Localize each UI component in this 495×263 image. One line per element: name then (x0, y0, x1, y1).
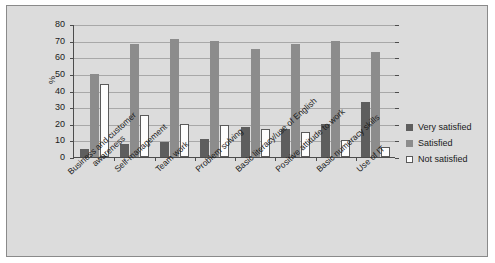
y-tick-mark (70, 92, 74, 93)
gridline (74, 42, 395, 43)
gridline (74, 92, 395, 93)
y-tick-mark (70, 25, 74, 26)
x-tick-mark (155, 157, 156, 161)
bar (170, 39, 179, 157)
bar (331, 41, 340, 157)
y-tick-mark-right (395, 92, 399, 93)
bar (291, 44, 300, 157)
x-tick-mark (356, 157, 357, 161)
x-tick-mark (195, 157, 196, 161)
y-tick-mark (70, 125, 74, 126)
chart-legend: Very satisfiedSatisfiedNot satisfied (406, 119, 490, 167)
gridline (74, 25, 395, 26)
y-tick-mark-right (395, 25, 399, 26)
y-tick-label: 50 (55, 70, 65, 79)
bar (371, 52, 380, 157)
y-tick-mark-right (395, 108, 399, 109)
y-tick-label: 0 (60, 153, 65, 162)
y-tick-label: 60 (55, 53, 65, 62)
y-tick-mark (70, 108, 74, 109)
legend-label: Satisfied (418, 138, 453, 148)
x-tick-mark (235, 157, 236, 161)
bar (251, 49, 260, 157)
legend-swatch (406, 140, 413, 147)
legend-label: Not satisfied (418, 154, 468, 164)
y-tick-mark (70, 58, 74, 59)
bar (130, 44, 139, 157)
x-tick-mark (275, 157, 276, 161)
y-tick-label: 40 (55, 87, 65, 96)
gridline (74, 75, 395, 76)
gridline (74, 108, 395, 109)
y-tick-label: 20 (55, 120, 65, 129)
y-tick-mark (70, 141, 74, 142)
x-tick-mark (316, 157, 317, 161)
legend-item: Very satisfied (406, 119, 490, 135)
legend-item: Not satisfied (406, 151, 490, 167)
y-tick-mark-right (395, 42, 399, 43)
y-tick-mark (70, 42, 74, 43)
legend-label: Very satisfied (418, 122, 472, 132)
y-tick-label: 30 (55, 103, 65, 112)
legend-swatch (406, 124, 413, 131)
y-tick-mark-right (395, 158, 399, 159)
y-tick-label: 10 (55, 136, 65, 145)
y-tick-mark-right (395, 141, 399, 142)
y-tick-mark (70, 158, 74, 159)
gridline (74, 58, 395, 59)
y-tick-mark-right (395, 58, 399, 59)
legend-swatch (406, 156, 413, 163)
y-tick-label: 80 (55, 20, 65, 29)
y-tick-mark-right (395, 125, 399, 126)
chart-frame: % 01020304050607080 Business and custome… (6, 5, 488, 257)
legend-item: Satisfied (406, 135, 490, 151)
y-tick-mark (70, 75, 74, 76)
y-tick-label: 70 (55, 37, 65, 46)
x-tick-mark (114, 157, 115, 161)
y-tick-mark-right (395, 75, 399, 76)
bar (210, 41, 219, 157)
chart-figure: % 01020304050607080 Business and custome… (0, 0, 495, 263)
